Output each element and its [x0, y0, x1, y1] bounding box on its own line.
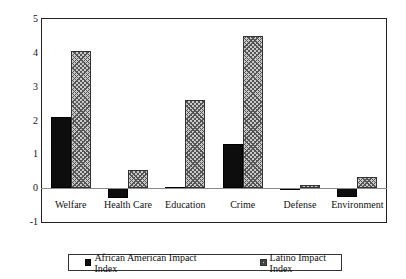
bar-latino — [128, 170, 148, 188]
legend-item-african-american: African American Impact Index — [85, 252, 206, 274]
bar-african-american — [337, 188, 357, 196]
bar-group — [214, 19, 271, 222]
y-tick-label: -1 — [0, 217, 38, 227]
legend-item-latino: Latino Impact Index — [260, 252, 341, 274]
y-tick-label: 1 — [0, 149, 38, 159]
bar-chart: Impact Index 543210-1 WelfareHealth Care… — [0, 0, 406, 279]
x-tick-label: Health Care — [99, 200, 156, 210]
bar-group — [157, 19, 214, 222]
legend-label-african-american: African American Impact Index — [94, 252, 206, 274]
x-tick-label: Defense — [271, 200, 328, 210]
x-tick-label: Welfare — [42, 200, 99, 210]
legend-label-latino: Latino Impact Index — [270, 252, 341, 274]
bar-group — [99, 19, 156, 222]
x-tick-label: Education — [157, 200, 214, 210]
bar-group — [329, 19, 386, 222]
zero-baseline — [41, 188, 387, 189]
legend-swatch-icon-african-american — [85, 259, 91, 266]
y-tick-label: 3 — [0, 82, 38, 92]
bar-latino — [243, 36, 263, 188]
bar-series-container — [42, 19, 386, 222]
bar-african-american — [223, 144, 243, 188]
bar-latino — [185, 100, 205, 188]
y-tick-label: 4 — [0, 48, 38, 58]
bar-latino — [357, 177, 377, 188]
bar-african-american — [51, 117, 71, 188]
legend-swatch-icon-latino — [260, 259, 266, 266]
x-tick-label: Environment — [329, 200, 386, 210]
y-tick-label: 2 — [0, 116, 38, 126]
y-tick-label: 0 — [0, 183, 38, 193]
y-tick-label: 5 — [0, 14, 38, 24]
chart-legend: African American Impact Index Latino Imp… — [68, 254, 342, 271]
bar-group — [271, 19, 328, 222]
bar-latino — [71, 51, 91, 188]
bar-african-american — [108, 188, 128, 197]
bar-group — [42, 19, 99, 222]
x-tick-label: Crime — [214, 200, 271, 210]
